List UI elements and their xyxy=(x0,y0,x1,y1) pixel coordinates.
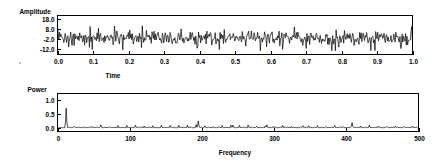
time-series-x-tick-label: 0.5 xyxy=(231,58,240,65)
power-spectrum-x-tick-label: 300 xyxy=(269,135,280,142)
time-series-trace xyxy=(58,26,413,51)
scan-artifact-speck xyxy=(19,62,21,64)
power-spectrum-x-tick-label: 100 xyxy=(125,135,136,142)
time-series-x-tick-label: 0.9 xyxy=(373,58,382,65)
power-spectrum-x-tick-label: 500 xyxy=(414,135,425,142)
power-spectrum-y-tick-label: 1.0 xyxy=(46,97,55,104)
time-series-y-tick-label: -12.0 xyxy=(40,46,55,53)
time-series-x-tick-label: 0.8 xyxy=(338,58,347,65)
power-spectrum-x-tick-label: 0 xyxy=(57,135,61,142)
time-series-y-tick-label: 18.0 xyxy=(42,16,55,23)
power-spectrum-x-axis-title: Frequency xyxy=(219,149,252,157)
time-series-x-tick-label: 1.0 xyxy=(409,58,418,65)
time-series-x-tick-label: 0.3 xyxy=(160,58,169,65)
power-spectrum-trace xyxy=(58,108,419,128)
power-spectrum-x-tick-label: 400 xyxy=(341,135,352,142)
time-series-y-axis-title: Amplitude xyxy=(20,8,52,16)
time-series-y-tick-label: 8.0 xyxy=(46,26,55,33)
power-spectrum-y-tick-label: 0.0 xyxy=(46,125,55,132)
time-series-x-tick-label: 0.6 xyxy=(267,58,276,65)
power-spectrum-y-tick-label: 0.5 xyxy=(46,111,55,118)
time-series-y-tick-label: -2.0 xyxy=(43,36,54,43)
time-series-x-tick-label: 0.7 xyxy=(302,58,311,65)
time-series-x-axis-title: Time xyxy=(106,72,121,79)
time-series-x-tick-label: 0.2 xyxy=(125,58,134,65)
time-series-x-tick-label: 0.0 xyxy=(54,58,63,65)
time-series-x-tick-label: 0.4 xyxy=(196,58,205,65)
time-series-x-tick-label: 0.1 xyxy=(89,58,98,65)
power-spectrum-x-tick-label: 200 xyxy=(197,135,208,142)
power-spectrum-plot-frame xyxy=(58,94,419,132)
power-spectrum-y-axis-title: Power xyxy=(28,86,48,93)
figure-canvas: 18.08.0-2.0-12.00.00.10.20.30.40.50.60.7… xyxy=(0,0,441,162)
figure-container: 18.08.0-2.0-12.00.00.10.20.30.40.50.60.7… xyxy=(0,0,441,162)
